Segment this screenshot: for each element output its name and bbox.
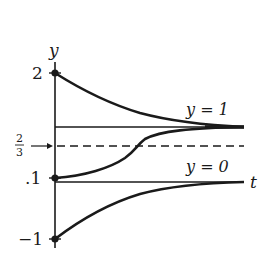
tick-label-two-thirds-denominator: 3 bbox=[16, 146, 23, 159]
initial-point-point-one bbox=[51, 174, 58, 181]
tick-label-2: 2 bbox=[32, 63, 43, 83]
tick-label-two-thirds-numerator: 2 bbox=[16, 132, 23, 145]
initial-point-2 bbox=[51, 69, 58, 76]
equilibrium-label-y0: y = 0 bbox=[185, 157, 229, 176]
solution-curves-diagram: y t 2 2 3 .1 −1 y = 1 y = 0 bbox=[0, 0, 264, 267]
arrow-head-icon bbox=[47, 143, 53, 149]
equilibrium-label-y1: y = 1 bbox=[185, 100, 229, 119]
solution-curve-from-minus-1 bbox=[55, 182, 244, 239]
initial-point-minus-1 bbox=[51, 235, 58, 242]
y-axis-label: y bbox=[48, 40, 59, 60]
t-axis-label: t bbox=[250, 172, 257, 192]
tick-label-minus-1: −1 bbox=[18, 229, 43, 249]
tick-label-point-one: .1 bbox=[25, 168, 41, 188]
